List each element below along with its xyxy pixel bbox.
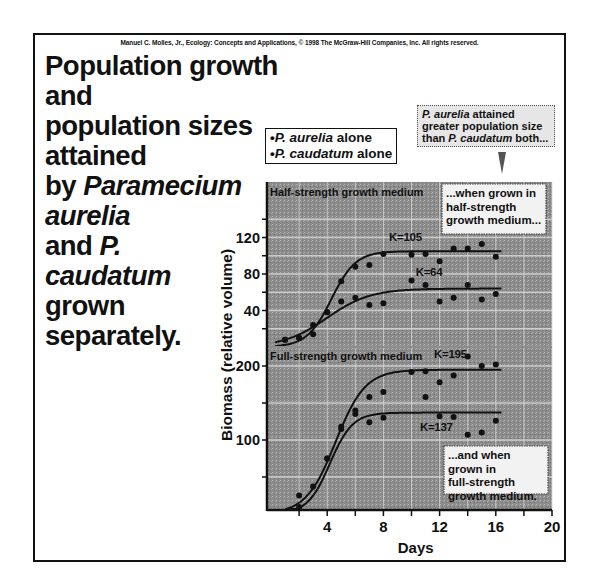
data-point	[282, 337, 288, 343]
k-label: K=137	[420, 421, 453, 433]
data-point	[352, 295, 358, 301]
data-point	[380, 300, 386, 306]
data-point	[465, 245, 471, 251]
data-point	[451, 295, 457, 301]
data-point	[366, 302, 372, 308]
x-tick-label: 12	[431, 518, 448, 535]
data-point	[366, 262, 372, 268]
data-point	[423, 251, 429, 257]
x-axis-label: Days	[398, 539, 434, 556]
data-point	[493, 254, 499, 260]
data-point	[437, 258, 443, 264]
callout-full-text: grown in	[448, 463, 496, 475]
x-tick-label: 20	[544, 518, 561, 535]
chart-svg: 1208040Half-strength growth mediumK=105K…	[0, 0, 600, 579]
x-tick-label: 4	[323, 518, 332, 535]
data-point	[296, 493, 302, 499]
data-point	[338, 298, 344, 304]
data-point	[366, 394, 372, 400]
data-point	[479, 430, 485, 436]
y-tick-label: 100	[236, 432, 260, 448]
data-point	[465, 282, 471, 288]
data-point	[324, 309, 330, 315]
y-tick-label: 120	[236, 230, 260, 246]
k-label: K=195	[434, 348, 468, 360]
callout-half-text: ...when grown in	[446, 187, 536, 199]
data-point	[465, 432, 471, 438]
data-point	[451, 373, 457, 379]
callout-full-text: full-strength	[448, 476, 515, 488]
data-point	[409, 252, 415, 258]
callout-full-text: growth medium.	[448, 490, 537, 502]
data-point	[310, 484, 316, 490]
data-point	[479, 297, 485, 303]
k-label: K=64	[416, 266, 444, 278]
data-point	[296, 335, 302, 341]
y-tick-label: 40	[244, 303, 260, 319]
data-point	[324, 456, 330, 462]
data-point	[409, 369, 415, 375]
k-label: K=105	[389, 231, 423, 243]
x-tick-label: 8	[379, 518, 387, 535]
x-tick-label: 16	[487, 518, 504, 535]
data-point	[352, 264, 358, 270]
y-axis-label: Biomass (relative volume)	[218, 249, 235, 441]
data-point	[338, 278, 344, 284]
data-point	[451, 245, 457, 251]
data-point	[437, 298, 443, 304]
data-point	[479, 241, 485, 247]
callout-full-text: ...and when	[448, 449, 511, 461]
data-point	[338, 424, 344, 430]
data-point	[423, 394, 429, 400]
data-point	[437, 379, 443, 385]
data-point	[409, 277, 415, 283]
panel-title-half: Half-strength growth medium	[270, 186, 424, 198]
data-point	[380, 389, 386, 395]
data-point	[366, 419, 372, 425]
panel-title-full: Full-strength growth medium	[270, 350, 422, 362]
data-point	[493, 291, 499, 297]
data-point	[423, 282, 429, 288]
callout-half-text: half-strength	[446, 201, 516, 213]
y-tick-label: 80	[244, 266, 260, 282]
data-point	[352, 407, 358, 413]
data-point	[423, 368, 429, 374]
y-tick-label: 200	[236, 358, 260, 374]
data-point	[310, 331, 316, 337]
data-point	[493, 418, 499, 424]
data-point	[380, 415, 386, 421]
data-point	[451, 414, 457, 420]
data-point	[380, 251, 386, 257]
data-point	[493, 362, 499, 368]
callout-half-text: growth medium...	[446, 214, 541, 226]
data-point	[479, 363, 485, 369]
data-point	[437, 413, 443, 419]
